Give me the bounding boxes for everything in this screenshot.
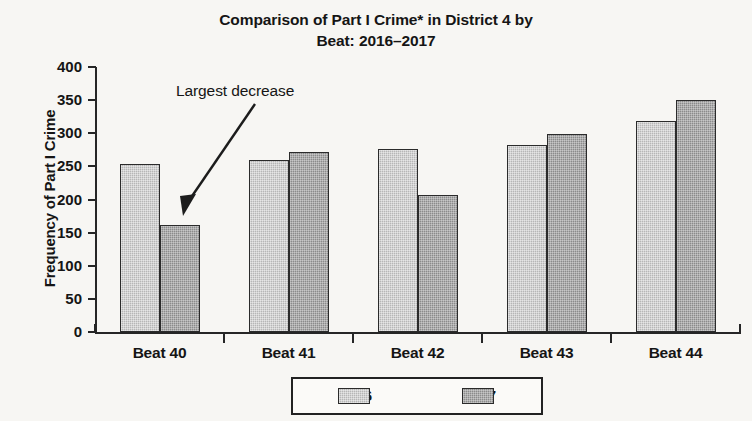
y-tick-250 (88, 165, 96, 167)
bar-beat-43-2016 (507, 145, 547, 332)
chart-legend: 2016 2017 (291, 377, 543, 415)
y-tick-label-0: 0 (34, 324, 82, 339)
y-tick-label-50: 50 (34, 291, 82, 306)
bar-beat-43-2017 (547, 134, 587, 332)
x-label-beat-42: Beat 42 (353, 344, 483, 362)
y-tick-label-100: 100 (34, 258, 82, 273)
y-tick-label-150: 150 (34, 225, 82, 240)
x-label-beat-43: Beat 43 (482, 344, 612, 362)
x-separator-tick-2 (352, 334, 354, 343)
annotation-largest-decrease-label: Largest decrease (176, 82, 294, 100)
x-axis-line (95, 332, 741, 334)
y-tick-150 (88, 232, 96, 234)
bar-beat-41-2016 (249, 160, 289, 332)
chart-title-line-2: Beat: 2016–2017 (316, 32, 435, 49)
x-separator-tick-3 (481, 334, 483, 343)
legend-item-2016: 2016 (338, 387, 372, 405)
x-axis-start-cap (94, 324, 96, 333)
y-tick-label-400: 400 (34, 59, 82, 74)
bar-beat-41-2017 (289, 152, 329, 332)
bar-beat-44-2016 (636, 121, 676, 332)
x-label-beat-41: Beat 41 (224, 344, 354, 362)
x-label-beat-44: Beat 44 (611, 344, 741, 362)
y-tick-400 (88, 66, 96, 68)
legend-swatch-2017 (462, 388, 494, 404)
bar-beat-40-2017 (160, 225, 200, 332)
chart-title: Comparison of Part I Crime* in District … (120, 10, 632, 51)
y-tick-label-300: 300 (34, 125, 82, 140)
x-separator-tick-4 (610, 334, 612, 343)
bar-beat-42-2017 (418, 195, 458, 332)
bar-beat-40-2016 (120, 164, 160, 332)
y-tick-label-350: 350 (34, 92, 82, 107)
y-tick-label-250: 250 (34, 158, 82, 173)
bar-beat-44-2017 (676, 100, 716, 332)
y-tick-350 (88, 99, 96, 101)
y-tick-300 (88, 132, 96, 134)
chart-title-line-1: Comparison of Part I Crime* in District … (219, 11, 532, 28)
x-separator-tick-1 (223, 334, 225, 343)
bar-chart: Comparison of Part I Crime* in District … (0, 0, 752, 421)
y-axis-line (95, 67, 97, 334)
y-tick-label-200: 200 (34, 192, 82, 207)
y-tick-200 (88, 199, 96, 201)
legend-item-2017: 2017 (462, 387, 496, 405)
bar-beat-42-2016 (378, 149, 418, 332)
x-label-beat-40: Beat 40 (95, 344, 225, 362)
y-tick-50 (88, 298, 96, 300)
y-tick-100 (88, 265, 96, 267)
x-axis-end-cap (739, 324, 741, 333)
legend-swatch-2016 (338, 388, 370, 404)
